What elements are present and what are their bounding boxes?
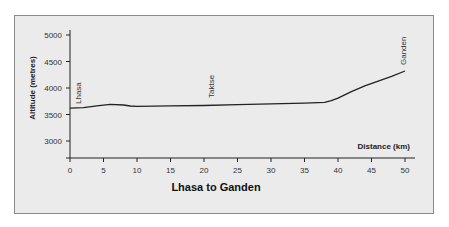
y-tick-label: 3000 — [44, 137, 62, 146]
altitude-line — [70, 71, 405, 108]
altitude-chart: 3000350040004500500005101520253035404550… — [0, 0, 449, 227]
place-label-taktse: Taktse — [207, 74, 216, 98]
x-tick-label: 15 — [166, 166, 175, 175]
x-tick-label: 0 — [68, 166, 73, 175]
x-axis-label: Distance (km) — [358, 142, 411, 151]
place-label-ganden: Ganden — [399, 37, 408, 65]
chart-title: Lhasa to Ganden — [171, 181, 261, 193]
y-tick-label: 4500 — [44, 58, 62, 67]
x-tick-label: 10 — [133, 166, 142, 175]
y-tick-label: 3500 — [44, 111, 62, 120]
x-tick-label: 25 — [233, 166, 242, 175]
place-label-lhasa: Lhasa — [74, 82, 83, 104]
x-tick-label: 5 — [101, 166, 106, 175]
y-tick-label: 5000 — [44, 31, 62, 40]
x-tick-label: 35 — [300, 166, 309, 175]
x-tick-label: 20 — [200, 166, 209, 175]
x-tick-label: 30 — [267, 166, 276, 175]
x-tick-label: 45 — [367, 166, 376, 175]
y-tick-label: 4000 — [44, 84, 62, 93]
y-axis-label: Altitude (metres) — [28, 56, 37, 120]
x-tick-label: 40 — [334, 166, 343, 175]
axes: 3000350040004500500005101520253035404550 — [44, 30, 415, 175]
x-tick-label: 50 — [401, 166, 410, 175]
